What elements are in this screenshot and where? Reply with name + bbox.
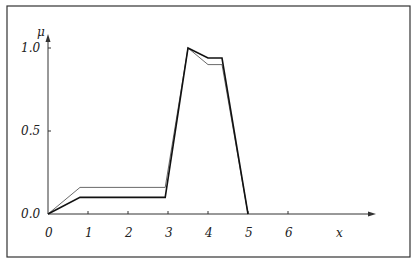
y-tick-label: 0.0 [21,207,40,221]
x-axis-arrow-icon [368,212,376,217]
y-axis-arrow-icon [46,34,51,42]
chart-frame [7,6,410,257]
series-line-thin [48,48,248,214]
y-tick-label: 1.0 [21,41,40,55]
x-tick-label: 0 [45,226,53,240]
x-tick-label: 2 [124,226,133,240]
x-tick-label: 1 [85,226,93,240]
series-lines [48,48,248,214]
x-tick-label: 5 [245,226,253,240]
axes [46,34,377,217]
ticks: 01234560.00.51.0 [21,41,293,240]
x-tick-label: 3 [165,226,173,240]
x-tick-label: 6 [285,226,293,240]
x-axis-label: x [336,226,343,240]
x-tick-label: 4 [204,226,213,240]
y-tick-label: 0.5 [21,124,40,138]
membership-chart: 01234560.00.51.0 μ x [0,0,415,262]
y-axis-label: μ [37,25,45,39]
